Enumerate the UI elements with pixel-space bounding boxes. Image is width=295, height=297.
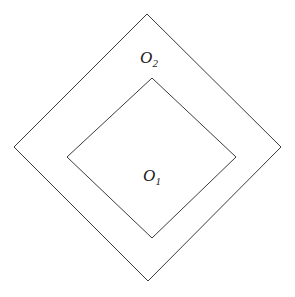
diagram-canvas: O2 O1 <box>0 0 295 297</box>
inner-region-label-subscript: 1 <box>155 175 161 187</box>
outer-region-label-subscript: 2 <box>152 57 158 69</box>
diagram-svg: O2 O1 <box>0 0 295 297</box>
outer-region-label-base: O <box>140 48 152 67</box>
diagram-background <box>0 0 295 297</box>
inner-region-label-base: O <box>143 166 155 185</box>
